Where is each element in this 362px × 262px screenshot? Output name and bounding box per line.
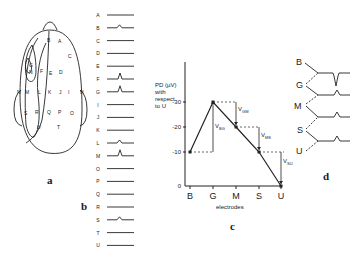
- d-label-G: G: [296, 80, 303, 90]
- d-label-U: U: [296, 146, 303, 156]
- d-label-M: M: [294, 101, 302, 111]
- d-label-B: B: [296, 57, 302, 67]
- d-label-S: S: [297, 125, 303, 135]
- dipole-schematic-icon: [0, 0, 362, 262]
- panel-label-d: d: [323, 170, 329, 182]
